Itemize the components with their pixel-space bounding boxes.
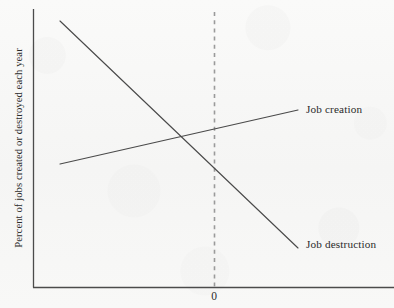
series-label-job-creation: Job creation [306, 103, 362, 115]
series-label-job-destruction: Job destruction [306, 238, 376, 250]
job-destruction-line [60, 21, 298, 248]
job-flows-chart-figure: Percent of jobs created or destroyed eac… [0, 0, 394, 308]
y-axis-title: Percent of jobs created or destroyed eac… [13, 48, 24, 248]
job-creation-line [60, 110, 298, 164]
x-axis-zero-tick-label: 0 [211, 290, 217, 302]
chart-plot-area [0, 0, 394, 308]
